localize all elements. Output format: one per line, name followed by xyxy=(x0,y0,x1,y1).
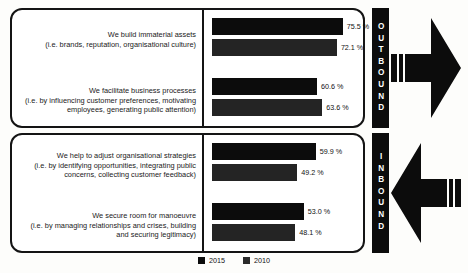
bar-value-2015: 60.6 % xyxy=(321,82,343,91)
bar-group-2010: 49.2 % xyxy=(212,164,324,181)
bar-2015 xyxy=(212,203,304,220)
bar-value-2010: 63.6 % xyxy=(326,103,348,112)
legend-label-2015: 2015 xyxy=(209,256,225,265)
statement-lead: We build immaterial assets xyxy=(20,30,196,40)
inbound-label-bar: INBOUND xyxy=(372,133,389,253)
arrow-right-icon xyxy=(391,8,461,128)
row-bars: 75.5 % 72.1 % xyxy=(204,10,363,70)
legend-swatch-2015 xyxy=(198,257,205,264)
statement-lead: We facilitate business processes xyxy=(20,86,196,96)
direction-block-inbound: INBOUND xyxy=(372,133,462,253)
chart-row: We secure room for manoeuvre (i.e. by ma… xyxy=(12,195,363,255)
bar-group-2015: 53.0 % xyxy=(212,203,330,220)
chart-canvas: We build immaterial assets (i.e. brands,… xyxy=(0,0,468,273)
bar-2010 xyxy=(212,99,322,116)
row-bars: 59.9 % 49.2 % xyxy=(204,135,363,195)
bar-value-2015: 59.9 % xyxy=(320,147,342,156)
outbound-label-bar: OUTBOUND xyxy=(372,8,389,128)
panel-inbound: We help to adjust organisational strateg… xyxy=(10,133,365,253)
bar-group-2010: 72.1 % xyxy=(212,39,363,56)
bar-group-2010: 48.1 % xyxy=(212,224,322,241)
bar-group-2015: 75.5 % xyxy=(212,18,369,35)
row-statement: We facilitate business processes (i.e. b… xyxy=(20,86,196,115)
bar-2010 xyxy=(212,39,337,56)
bar-value-2015: 75.5 % xyxy=(347,22,369,31)
bar-group-2015: 59.9 % xyxy=(212,143,342,160)
statement-lead: We help to adjust organisational strateg… xyxy=(20,151,196,161)
bar-2015 xyxy=(212,78,317,95)
inbound-label: INBOUND xyxy=(376,152,384,233)
bar-2015 xyxy=(212,18,343,35)
statement-sub: (i.e. by identifying opportunities, inte… xyxy=(20,160,196,179)
chart-row: We build immaterial assets (i.e. brands,… xyxy=(12,10,363,70)
statement-lead: We secure room for manoeuvre xyxy=(20,211,196,221)
bar-value-2010: 49.2 % xyxy=(301,168,323,177)
chart-legend: 2015 2010 xyxy=(0,252,468,268)
chart-row: We help to adjust organisational strateg… xyxy=(12,135,363,195)
bar-value-2010: 72.1 % xyxy=(341,43,363,52)
bar-2015 xyxy=(212,143,316,160)
outbound-label: OUTBOUND xyxy=(376,22,384,115)
statement-sub: (i.e. by managing relationships and cris… xyxy=(20,220,196,239)
statement-sub: (i.e. by influencing customer preference… xyxy=(20,95,196,114)
bar-value-2015: 53.0 % xyxy=(308,207,330,216)
bar-2010 xyxy=(212,224,295,241)
row-statement: We build immaterial assets (i.e. brands,… xyxy=(20,30,196,49)
bar-group-2015: 60.6 % xyxy=(212,78,343,95)
bar-group-2010: 63.6 % xyxy=(212,99,349,116)
legend-item-2015: 2015 xyxy=(198,256,225,265)
legend-swatch-2010 xyxy=(243,257,250,264)
panel-outbound: We build immaterial assets (i.e. brands,… xyxy=(10,8,365,128)
bar-value-2010: 48.1 % xyxy=(299,228,321,237)
row-statement: We secure room for manoeuvre (i.e. by ma… xyxy=(20,211,196,240)
chart-row: We facilitate business processes (i.e. b… xyxy=(12,70,363,130)
arrow-left-icon xyxy=(391,133,461,253)
row-bars: 53.0 % 48.1 % xyxy=(204,195,363,255)
bar-2010 xyxy=(212,164,297,181)
legend-item-2010: 2010 xyxy=(243,256,270,265)
direction-block-outbound: OUTBOUND xyxy=(372,8,462,128)
legend-label-2010: 2010 xyxy=(254,256,270,265)
row-bars: 60.6 % 63.6 % xyxy=(204,70,363,130)
statement-sub: (i.e. brands, reputation, organisational… xyxy=(20,40,196,50)
row-statement: We help to adjust organisational strateg… xyxy=(20,151,196,180)
